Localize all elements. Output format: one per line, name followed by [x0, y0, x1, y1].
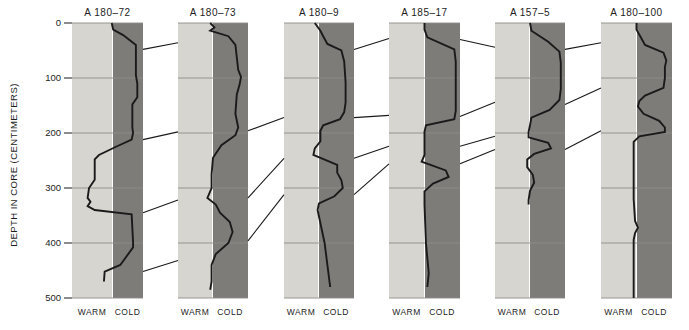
warm-band — [72, 23, 112, 298]
correlation-line — [460, 150, 495, 164]
warm-band — [178, 23, 212, 298]
correlation-line — [565, 43, 601, 50]
core-label: A 157–5 — [510, 7, 550, 18]
warm-label: WARM — [181, 307, 210, 317]
warm-label: WARM — [604, 307, 633, 317]
correlation-line — [565, 131, 601, 150]
core-labels-group: A 180–72A 180–73A 180–9A 185–17A 157–5A … — [84, 7, 662, 18]
correlation-line — [354, 38, 389, 49]
cold-band — [113, 23, 143, 298]
correlation-line — [460, 102, 495, 116]
correlation-line — [248, 118, 284, 131]
core-label: A 180–100 — [610, 7, 662, 18]
y-tick-label: 100 — [45, 72, 61, 83]
correlation-line — [143, 261, 178, 272]
correlation-line — [354, 164, 389, 195]
cold-band — [425, 23, 460, 298]
core-label: A 180–72 — [84, 7, 130, 18]
y-tick-label: 300 — [45, 182, 61, 193]
cold-label: COLD — [323, 307, 349, 317]
correlation-line — [460, 136, 495, 146]
correlation-line — [460, 40, 495, 48]
cold-label: COLD — [429, 307, 455, 317]
warm-band — [389, 23, 424, 298]
y-tick-label: 0 — [56, 17, 61, 28]
warm-band — [601, 23, 636, 298]
cold-band — [530, 23, 565, 298]
correlation-line — [248, 158, 284, 198]
cold-band — [637, 23, 672, 298]
correlation-line — [248, 195, 284, 241]
correlation-line — [354, 115, 389, 117]
correlation-line — [565, 88, 601, 105]
warm-band — [495, 23, 529, 298]
core-label: A 180–9 — [299, 7, 339, 18]
y-axis-title: DEPTH IN CORE (CENTIMETERS) — [8, 83, 19, 247]
cold-label: COLD — [217, 307, 243, 317]
core-label: A 180–73 — [190, 7, 236, 18]
warm-label: WARM — [78, 307, 107, 317]
cold-label: COLD — [534, 307, 560, 317]
core-depth-profile-chart: 0100200300400500 A 180–72A 180–73A 180–9… — [0, 0, 689, 330]
warm-label: WARM — [498, 307, 527, 317]
cold-band — [213, 23, 248, 298]
y-tick-label: 200 — [45, 127, 61, 138]
climate-curves-group — [88, 23, 667, 298]
warm-label: WARM — [287, 307, 316, 317]
cold-label: COLD — [641, 307, 667, 317]
warm-band — [284, 23, 318, 298]
cold-label: COLD — [115, 307, 141, 317]
warm-label: WARM — [392, 307, 421, 317]
correlation-line — [354, 146, 389, 158]
correlation-line — [143, 132, 178, 140]
y-axis-ticks-group: 0100200300400500 — [45, 17, 72, 303]
y-tick-label: 400 — [45, 237, 61, 248]
correlation-line — [143, 43, 178, 50]
core-label: A 185–17 — [401, 7, 447, 18]
correlation-line — [143, 200, 178, 213]
footer-labels-group: WARMCOLDWARMCOLDWARMCOLDWARMCOLDWARMCOLD… — [78, 307, 667, 317]
depth-gridlines-group — [72, 23, 672, 298]
core-correlation-figure: 0100200300400500 A 180–72A 180–73A 180–9… — [0, 0, 689, 330]
panel-bands-group — [72, 23, 672, 298]
y-tick-label: 500 — [45, 292, 61, 303]
